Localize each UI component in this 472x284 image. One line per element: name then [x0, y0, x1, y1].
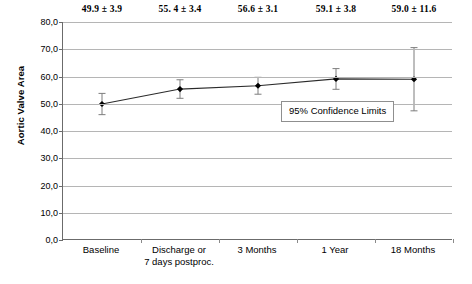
confidence-limits-legend: 95% Confidence Limits [281, 101, 394, 122]
data-point-marker [177, 86, 183, 92]
y-tick-mark [59, 213, 63, 214]
gridline [63, 131, 452, 132]
gridline [63, 49, 452, 50]
x-tick-mark [297, 239, 298, 243]
x-tick-label-line: Discharge or [144, 244, 214, 256]
x-tick-label: Baseline [83, 244, 119, 256]
gridline [63, 77, 452, 78]
plot-area: 49.9 ± 3.955. 4 ± 3.456.6 ± 3.159.1 ± 3.… [62, 22, 452, 240]
x-tick-label-line: 3 Months [237, 244, 276, 256]
y-tick-label: 30,0 [24, 154, 58, 163]
y-tick-mark [59, 49, 63, 50]
y-tick-label: 10,0 [24, 208, 58, 217]
x-tick-mark [375, 239, 376, 243]
x-axis-tick-labels: BaselineDischarge or7 days postproc.3 Mo… [62, 244, 452, 280]
x-tick-mark [453, 239, 454, 243]
x-tick-mark [219, 239, 220, 243]
y-tick-mark [59, 104, 63, 105]
x-tick-label: 1 Year [322, 244, 349, 256]
gridline [63, 186, 452, 187]
x-tick-label: 3 Months [237, 244, 276, 256]
x-tick-label-line: Baseline [83, 244, 119, 256]
y-tick-mark [59, 186, 63, 187]
data-point-label: 59.1 ± 3.8 [316, 4, 356, 14]
y-tick-label: 0,0 [24, 236, 58, 245]
y-tick-mark [59, 77, 63, 78]
data-point-label: 49.9 ± 3.9 [82, 4, 122, 14]
y-tick-mark [59, 158, 63, 159]
data-point-label: 59.0 ± 11.6 [392, 4, 437, 14]
x-tick-label: 18 Months [391, 244, 435, 256]
y-tick-mark [59, 240, 63, 241]
gridline [63, 213, 452, 214]
y-tick-label: 60,0 [24, 72, 58, 81]
gridline [63, 22, 452, 23]
y-tick-label: 20,0 [24, 181, 58, 190]
x-tick-label-line: 1 Year [322, 244, 349, 256]
chart-figure: Aortic Valve Area 0,010,020,030,040,050,… [0, 0, 472, 284]
y-tick-label: 50,0 [24, 99, 58, 108]
data-point-marker [255, 83, 261, 89]
gridline [63, 158, 452, 159]
data-point-label: 56.6 ± 3.1 [238, 4, 278, 14]
x-tick-mark [141, 239, 142, 243]
x-tick-label: Discharge or7 days postproc. [144, 244, 214, 268]
y-axis-tick-labels: 0,010,020,030,040,050,060,070,080,0 [24, 0, 58, 284]
y-tick-label: 70,0 [24, 45, 58, 54]
x-tick-label-line: 7 days postproc. [144, 256, 214, 268]
y-tick-mark [59, 22, 63, 23]
y-tick-label: 80,0 [24, 18, 58, 27]
y-tick-mark [59, 131, 63, 132]
data-point-label: 55. 4 ± 3.4 [158, 4, 201, 14]
x-tick-label-line: 18 Months [391, 244, 435, 256]
y-tick-label: 40,0 [24, 127, 58, 136]
